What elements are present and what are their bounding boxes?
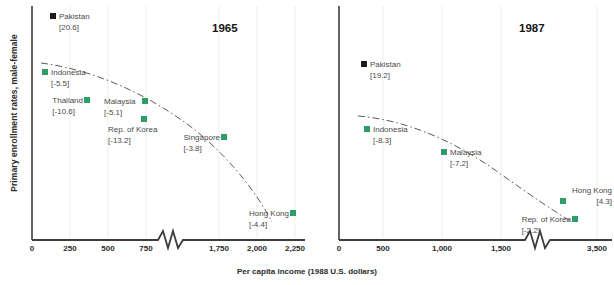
marker-indonesia-1965 xyxy=(42,69,48,75)
marker-pakistan-1965 xyxy=(50,13,56,19)
point-label-thailand-1965: Thailand [-10.6] xyxy=(52,95,83,117)
point-value: [-2.2] xyxy=(522,225,571,236)
point-name: Thailand xyxy=(52,95,83,106)
point-value: [4.3] xyxy=(572,196,612,207)
point-name: Hong Kong xyxy=(572,185,612,196)
x-tick-1965-3: 750 xyxy=(139,244,152,253)
year-label-1965: 1965 xyxy=(212,22,238,34)
point-name: Rep. of Korea xyxy=(108,124,157,135)
point-value: [-3.8] xyxy=(184,143,220,154)
x-tick-1965-5: 2,000 xyxy=(247,244,267,253)
point-value: [19.2] xyxy=(370,70,401,81)
point-label-indonesia-1987: Indonesia [-8.3] xyxy=(373,124,408,146)
point-name: Malaysia xyxy=(104,96,136,107)
figure-panel-chart: 1965 0 250 500 750 1,750 2,000 2,250 Pak… xyxy=(0,0,614,285)
x-tick-1965-2: 500 xyxy=(101,244,114,253)
point-name: Indonesia xyxy=(373,124,408,135)
x-tick-1965-4: 1,750 xyxy=(209,244,229,253)
point-value: [-5.1] xyxy=(104,107,136,118)
point-value: [-10.6] xyxy=(52,106,83,117)
point-value: [-13.2] xyxy=(108,135,157,146)
point-value: [-4.4] xyxy=(249,219,289,230)
point-label-rep-of-korea-1965: Rep. of Korea [-13.2] xyxy=(108,124,157,146)
point-label-pakistan-1987: Pakistan [19.2] xyxy=(370,59,401,81)
point-name: Malaysia xyxy=(450,147,482,158)
point-label-malaysia-1987: Malaysia [-7.2] xyxy=(450,147,482,169)
point-label-singapore-1965: Singapore [-3.8] xyxy=(184,132,220,154)
marker-rep-of-korea-1965 xyxy=(141,116,147,122)
marker-malaysia-1987 xyxy=(441,149,447,155)
x-axis-title: Per capita income (1988 U.S. dollars) xyxy=(0,267,614,276)
point-value: [-7.2] xyxy=(450,158,482,169)
x-tick-1987-0: 0 xyxy=(337,244,341,253)
point-name: Singapore xyxy=(184,132,220,143)
point-label-hong-kong-1965: Hong Kong [-4.4] xyxy=(249,208,289,230)
x-tick-1965-6: 2,250 xyxy=(285,244,305,253)
point-label-rep-of-korea-1987: Rep. of Korea [-2.2] xyxy=(522,214,571,236)
x-tick-1965-1: 250 xyxy=(63,244,76,253)
marker-singapore-1965 xyxy=(221,134,227,140)
chart-panel-1987: 1987 0 500 1,000 1,500 3,500 Pakistan [1… xyxy=(307,0,614,260)
point-value: [-5.5] xyxy=(51,78,86,89)
x-tick-1987-3: 1,500 xyxy=(491,244,511,253)
marker-pakistan-1987 xyxy=(361,61,367,67)
marker-hong-kong-1987 xyxy=(560,198,566,204)
marker-malaysia-1965 xyxy=(142,98,148,104)
point-value: [20.6] xyxy=(59,22,90,33)
x-tick-1965-0: 0 xyxy=(30,244,34,253)
x-tick-1987-1: 500 xyxy=(376,244,389,253)
gridlines-1965 xyxy=(70,6,295,238)
point-name: Pakistan xyxy=(370,59,401,70)
marker-hong-kong-1965 xyxy=(290,210,296,216)
point-name: Hong Kong xyxy=(249,208,289,219)
chart-panel-1965: 1965 0 250 500 750 1,750 2,000 2,250 Pak… xyxy=(0,0,307,260)
point-label-hong-kong-1987: Hong Kong [4.3] xyxy=(572,185,612,207)
year-label-1987: 1987 xyxy=(519,22,545,34)
point-name: Pakistan xyxy=(59,11,90,22)
point-name: Indonesia xyxy=(51,67,86,78)
point-label-indonesia-1965: Indonesia [-5.5] xyxy=(51,67,86,89)
x-tick-1987-2: 1,000 xyxy=(432,244,452,253)
point-name: Rep. of Korea xyxy=(522,214,571,225)
point-label-malaysia-1965: Malaysia [-5.1] xyxy=(104,96,136,118)
marker-indonesia-1987 xyxy=(364,126,370,132)
point-label-pakistan-1965: Pakistan [20.6] xyxy=(59,11,90,33)
x-tick-1987-4: 3,500 xyxy=(587,244,607,253)
marker-rep-of-korea-1987 xyxy=(572,216,578,222)
y-axis-title: Primary enrollment rates, male-female xyxy=(9,13,19,213)
marker-thailand-1965 xyxy=(84,97,90,103)
point-value: [-8.3] xyxy=(373,135,408,146)
